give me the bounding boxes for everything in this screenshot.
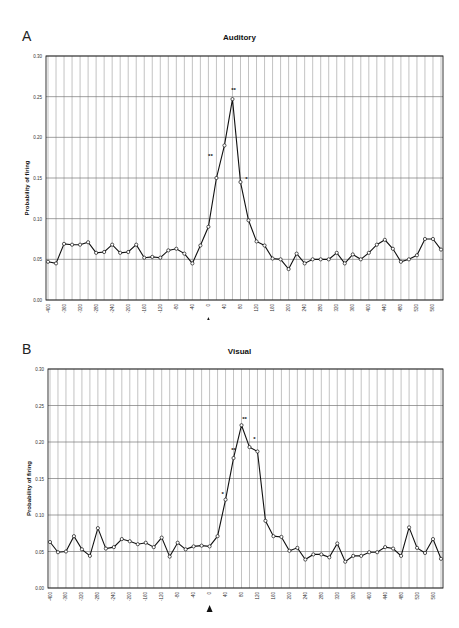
x-tick-label: -400 bbox=[48, 592, 53, 602]
x-tick-label: 480 bbox=[399, 592, 404, 600]
x-tick-label: -80 bbox=[175, 592, 180, 599]
x-tick-label: 320 bbox=[335, 592, 340, 600]
panel-b: B Visual 0.000.050.100.150.200.250.30-40… bbox=[0, 0, 459, 628]
data-point bbox=[376, 551, 379, 554]
data-point bbox=[336, 542, 339, 545]
x-tick-label: 160 bbox=[271, 592, 276, 600]
data-point bbox=[208, 545, 211, 548]
data-point bbox=[352, 554, 355, 557]
x-tick-label: -320 bbox=[79, 592, 84, 602]
x-tick-label: -160 bbox=[143, 592, 148, 602]
data-point bbox=[360, 554, 363, 557]
data-point bbox=[280, 535, 283, 538]
data-point bbox=[88, 554, 91, 557]
data-point bbox=[288, 549, 291, 552]
x-tick-label: 40 bbox=[223, 592, 228, 598]
data-point bbox=[415, 546, 418, 549]
data-point bbox=[112, 546, 115, 549]
x-tick-label: -120 bbox=[159, 592, 164, 602]
significance-marker: ** bbox=[242, 416, 247, 422]
plot-border bbox=[48, 369, 443, 588]
y-tick-label: 0.15 bbox=[35, 477, 44, 482]
y-tick-label: 0.30 bbox=[35, 367, 44, 372]
data-point bbox=[407, 526, 410, 529]
data-point bbox=[224, 498, 227, 501]
data-point bbox=[184, 548, 187, 551]
data-point bbox=[344, 560, 347, 563]
y-tick-label: 0.10 bbox=[35, 513, 44, 518]
significance-marker: * bbox=[253, 436, 256, 442]
data-point bbox=[160, 536, 163, 539]
data-point bbox=[72, 535, 75, 538]
data-point bbox=[64, 550, 67, 553]
data-point bbox=[200, 544, 203, 547]
data-point bbox=[240, 424, 243, 427]
data-point bbox=[248, 446, 251, 449]
x-tick-label: -360 bbox=[63, 592, 68, 602]
x-tick-label: -240 bbox=[111, 592, 116, 602]
data-line bbox=[50, 425, 441, 562]
x-tick-label: 360 bbox=[351, 592, 356, 600]
significance-marker: ** bbox=[231, 447, 236, 453]
data-point bbox=[400, 554, 403, 557]
data-point bbox=[423, 551, 426, 554]
x-tick-label: 240 bbox=[303, 592, 308, 600]
x-tick-label: 120 bbox=[255, 592, 260, 600]
data-point bbox=[384, 546, 387, 549]
data-point bbox=[216, 535, 219, 538]
x-tick-label: 440 bbox=[383, 592, 388, 600]
x-tick-label: 0 bbox=[207, 592, 212, 595]
data-point bbox=[104, 547, 107, 550]
data-point bbox=[431, 537, 434, 540]
x-tick-label: 400 bbox=[367, 592, 372, 600]
visual-chart: 0.000.050.100.150.200.250.30-400-360-320… bbox=[0, 0, 459, 628]
x-tick-label: -40 bbox=[191, 592, 196, 599]
data-point bbox=[232, 456, 235, 459]
x-tick-label: -280 bbox=[95, 592, 100, 602]
data-point bbox=[128, 540, 131, 543]
y-tick-label: 0.00 bbox=[35, 586, 44, 591]
data-point bbox=[256, 450, 259, 453]
data-point bbox=[312, 553, 315, 556]
data-point bbox=[392, 547, 395, 550]
data-point bbox=[320, 553, 323, 556]
x-tick-label: 520 bbox=[415, 592, 420, 600]
data-point bbox=[96, 527, 99, 530]
data-point bbox=[152, 546, 155, 549]
data-point bbox=[304, 558, 307, 561]
x-tick-label: 280 bbox=[319, 592, 324, 600]
y-tick-label: 0.05 bbox=[35, 550, 44, 555]
data-point bbox=[272, 535, 275, 538]
x-tick-label: 560 bbox=[431, 592, 436, 600]
x-tick-label: 200 bbox=[287, 592, 292, 600]
data-point bbox=[48, 540, 51, 543]
y-tick-label: 0.20 bbox=[35, 440, 44, 445]
data-point bbox=[144, 541, 147, 544]
data-point bbox=[368, 551, 371, 554]
y-tick-label: 0.25 bbox=[35, 404, 44, 409]
panel-b-title: Visual bbox=[0, 347, 459, 356]
data-point bbox=[192, 545, 195, 548]
data-point bbox=[264, 519, 267, 522]
significance-marker: * bbox=[221, 491, 224, 497]
data-point bbox=[296, 546, 299, 549]
data-point bbox=[80, 548, 83, 551]
data-point bbox=[168, 555, 171, 558]
y-axis-label: Probability of firing bbox=[26, 461, 32, 516]
data-point bbox=[328, 556, 331, 559]
x-tick-label: 80 bbox=[239, 592, 244, 598]
data-point bbox=[56, 551, 59, 554]
data-point bbox=[120, 537, 123, 540]
stimulus-arrow-icon bbox=[207, 605, 213, 612]
data-point bbox=[439, 557, 442, 560]
data-point bbox=[136, 543, 139, 546]
data-point bbox=[176, 541, 179, 544]
x-tick-label: -200 bbox=[127, 592, 132, 602]
